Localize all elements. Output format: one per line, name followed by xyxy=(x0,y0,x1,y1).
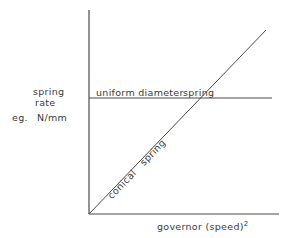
y-units-prefix: eg. xyxy=(12,112,28,123)
y-axis-label-line-1: spring xyxy=(33,86,64,97)
y-units: N/mm xyxy=(37,112,67,123)
x-axis-label-superscript: 2 xyxy=(244,220,249,228)
y-axis-label-line-2: rate xyxy=(35,97,56,108)
x-axis-label: governor (speed)2 xyxy=(157,219,248,232)
uniform-diameter-label: uniform diameter xyxy=(96,87,184,98)
uniform-spring-label: spring xyxy=(183,87,214,98)
x-axis-label-text: governor (speed) xyxy=(157,221,244,232)
